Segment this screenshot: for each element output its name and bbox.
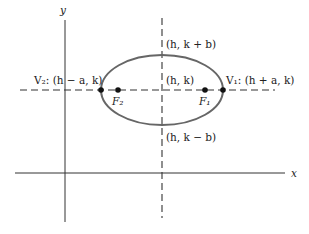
top-point-label: (h, k + b) — [166, 38, 216, 50]
vertex-v2-point — [98, 87, 104, 93]
vertex-v1-point — [220, 87, 226, 93]
focus-f2-point — [115, 87, 121, 93]
focus-f2-label: F₂ — [111, 95, 124, 107]
vertex-v1-label: V₁: (h + a, k) — [225, 74, 294, 86]
vertex-v2-label: V₂: (h − a, k) — [33, 74, 102, 86]
bottom-point-label: (h, k − b) — [166, 131, 216, 143]
center-label: (h, k) — [166, 74, 194, 86]
x-axis-label: x — [291, 167, 297, 179]
focus-f1-point — [202, 87, 208, 93]
y-axis-label: y — [59, 4, 67, 16]
focus-f1-label: F₁ — [198, 95, 211, 107]
ellipse-diagram: y x (h, k + b) (h, k) (h, k − b) V₂: (h … — [0, 0, 309, 234]
